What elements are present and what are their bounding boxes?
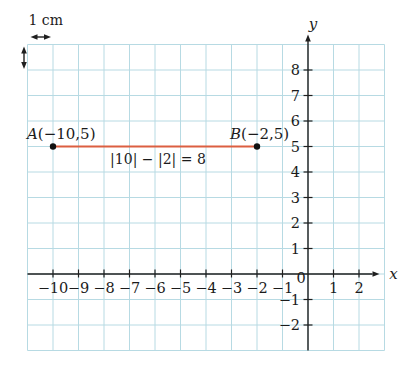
point-A [50,143,56,149]
y-axis-label: y [308,15,318,33]
coordinate-grid-figure: xy−10−9−8−7−6−5−4−3−2−101287654321−1−2|1… [0,0,413,371]
y-tick-label: 1 [291,241,300,257]
scale-v-arrowhead-top [21,47,27,54]
y-tick-label: 3 [291,190,300,206]
point-label-A: A(−10,5) [25,125,96,143]
y-tick-label: −1 [279,292,300,308]
scale-h-arrowhead-right [44,34,51,40]
segment-annotation: |10| − |2| = 8 [110,151,206,168]
x-tick-label: −5 [170,280,191,296]
scale-label: 1 cm [29,12,63,28]
x-tick-label: −8 [93,280,114,296]
y-tick-label: 6 [291,113,300,129]
x-axis-label: x [389,265,398,283]
y-tick-label: 2 [291,215,300,231]
scale-h-arrowhead-left [31,34,38,40]
x-tick-label: −7 [119,280,140,296]
x-tick-label: 2 [354,280,363,296]
grid-lines [28,45,385,351]
point-B [254,143,260,149]
axes [28,40,373,351]
x-tick-label: −9 [68,280,89,296]
x-tick-label: −2 [246,280,267,296]
x-tick-label: −4 [195,280,216,296]
x-tick-label: −10 [38,280,69,296]
y-tick-label: 4 [291,164,300,180]
y-tick-label: 8 [291,62,300,78]
y-tick-label: 5 [291,139,300,155]
y-axis-arrowhead [305,35,311,42]
scale-v-arrowhead-bottom [21,62,27,69]
x-tick-label: 0 [296,270,305,286]
x-tick-label: −3 [221,280,242,296]
y-tick-label: −2 [279,317,300,333]
x-tick-label: −6 [144,280,165,296]
point-label-B: B(−2,5) [229,125,289,143]
x-axis-arrowhead [373,271,380,277]
y-tick-label: 7 [291,88,300,104]
x-tick-label: 1 [329,280,338,296]
plot-svg: xy−10−9−8−7−6−5−4−3−2−101287654321−1−2|1… [0,0,413,371]
